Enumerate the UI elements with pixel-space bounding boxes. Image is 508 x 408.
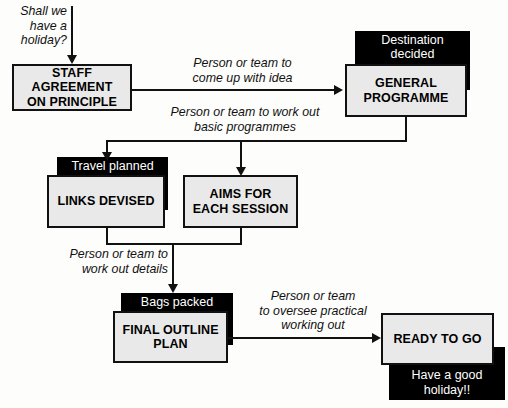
connector-staff-to-genprog [132, 89, 335, 91]
label-come-up-with-idea: Person or team to come up with idea [155, 56, 330, 85]
node-general-programme[interactable]: GENERAL PROGRAMME [345, 64, 467, 117]
node-ready-to-go[interactable]: READY TO GO [381, 313, 494, 365]
arrow-into-ready-to-go [372, 333, 381, 343]
node-aims-for-each-session[interactable]: AIMS FOR EACH SESSION [183, 175, 298, 228]
arrow-into-genprog [334, 85, 343, 95]
arrow-into-final-plan [168, 284, 178, 293]
connector-start-vertical [71, 6, 73, 58]
node-links-devised[interactable]: LINKS DEVISED [47, 175, 165, 228]
connector-branch-horizontal [106, 140, 407, 142]
node-final-outline-plan[interactable]: FINAL OUTLINE PLAN [113, 311, 228, 363]
arrow-into-links [102, 152, 112, 161]
connector-merge-to-final [172, 243, 174, 288]
connector-branch-to-aims [240, 140, 242, 170]
node-staff-agreement[interactable]: STAFF AGREEMENT ON PRINCIPLE [12, 64, 132, 111]
connector-genprog-down [405, 117, 407, 142]
connector-final-to-ready [228, 337, 373, 339]
label-oversee-practical: Person or team to oversee practical work… [240, 289, 386, 333]
connector-merge-horizontal [106, 243, 242, 245]
arrow-start-to-staff [67, 55, 77, 64]
label-start-question: Shall we have a holiday? [5, 4, 67, 48]
flowchart-canvas: Shall we have a holiday? STAFF AGREEMENT… [0, 0, 508, 408]
label-basic-programmes: Person or team to work out basic program… [145, 105, 345, 134]
label-work-out-details: Person or team to work out details [20, 247, 168, 276]
